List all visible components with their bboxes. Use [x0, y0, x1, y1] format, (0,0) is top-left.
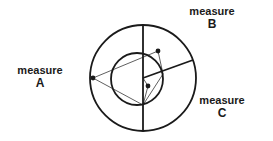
label-measure-c: measure C — [186, 94, 258, 120]
point-measure-a — [91, 76, 96, 81]
label-measure-c-letter: C — [186, 107, 258, 120]
point-measure-c — [146, 84, 151, 89]
diagram-canvas: measure A measure B measure C — [0, 0, 273, 141]
label-measure-a-letter: A — [4, 77, 76, 90]
radial-line-to-measure-c — [143, 60, 193, 78]
inner-circle — [111, 53, 163, 105]
label-measure-b-letter: B — [176, 18, 248, 31]
label-measure-b: measure B — [176, 5, 248, 31]
label-measure-a: measure A — [4, 64, 76, 90]
thin-line-b-to-edge — [158, 51, 163, 74]
point-measure-b — [156, 49, 161, 54]
thin-line-a-to-bottom — [93, 78, 143, 105]
